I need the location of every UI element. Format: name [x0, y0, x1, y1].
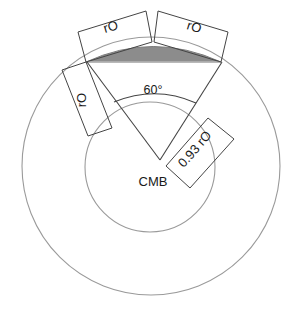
label-dim-top-right: rO [185, 17, 203, 36]
outer-circle [22, 37, 280, 295]
wedge-left-arm [87, 62, 160, 160]
label-angle: 60° [144, 83, 163, 97]
label-dim-left: rO [74, 93, 89, 107]
shaded-lens-region [86, 47, 221, 63]
label-center-cmb: CMB [139, 174, 168, 189]
diagram-root: rO rO rO 0.93 rO 60° CMB [0, 0, 295, 313]
inner-circle [85, 102, 215, 232]
geometry-diagram-canvas: rO rO rO 0.93 rO 60° CMB [0, 0, 295, 313]
